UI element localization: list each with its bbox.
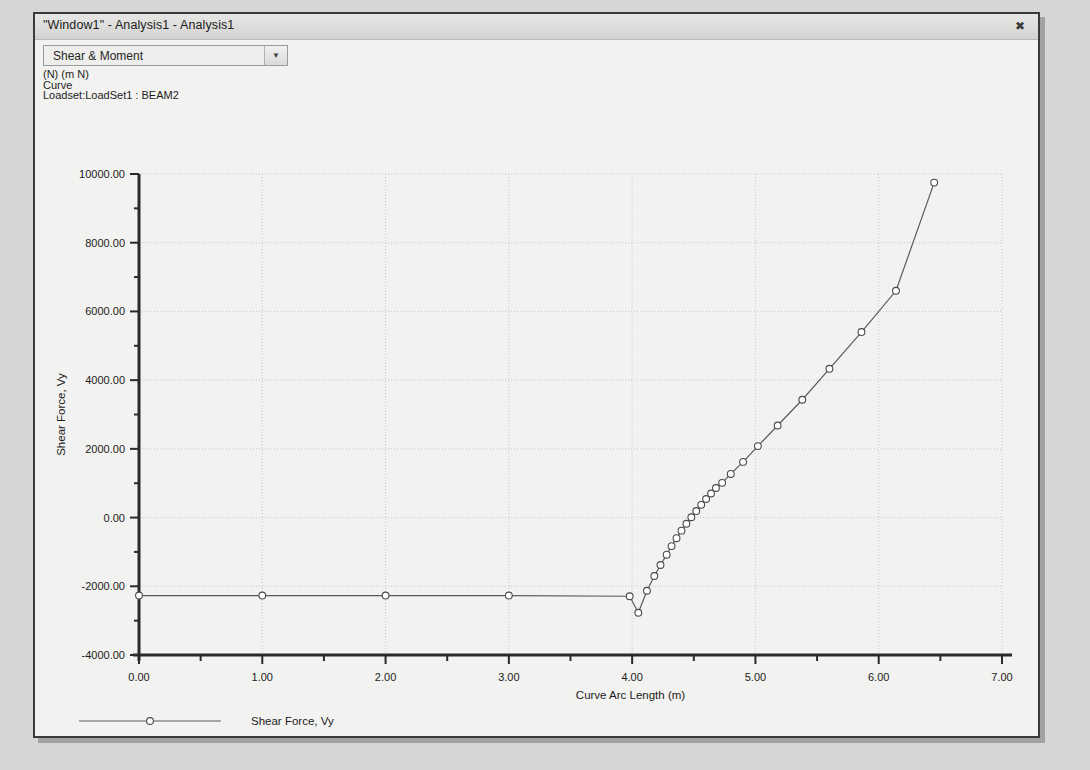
shear-force-chart: -4000.00-2000.000.002000.004000.006000.0… <box>35 14 1042 740</box>
chart-axes <box>133 174 1012 661</box>
chart-gridlines <box>139 174 1002 655</box>
y-tick-label: -4000.00 <box>82 649 125 661</box>
legend-label: Shear Force, Vy <box>251 715 334 727</box>
x-tick-label: 1.00 <box>252 671 273 683</box>
y-tick-label: 10000.00 <box>79 168 125 180</box>
x-tick-label: 0.00 <box>128 671 149 683</box>
y-tick-label: 2000.00 <box>85 443 125 455</box>
x-tick-label: 7.00 <box>991 671 1012 683</box>
x-tick-label: 5.00 <box>745 671 766 683</box>
y-tick-label: 4000.00 <box>85 374 125 386</box>
x-tick-label: 3.00 <box>498 671 519 683</box>
x-axis-title: Curve Arc Length (m) <box>576 689 685 701</box>
x-tick-label: 4.00 <box>621 671 642 683</box>
chart-ticks <box>130 174 1002 664</box>
y-tick-label: 8000.00 <box>85 237 125 249</box>
chart-legend: Shear Force, Vy <box>79 715 334 727</box>
analysis-window: "Window1" - Analysis1 - Analysis1 ✖ Shea… <box>33 12 1040 738</box>
chart-tick-labels: -4000.00-2000.000.002000.004000.006000.0… <box>79 168 1013 683</box>
y-axis-title: Shear Force, Vy <box>55 373 67 456</box>
chart-series <box>136 179 938 616</box>
y-tick-label: 0.00 <box>104 512 125 524</box>
x-tick-label: 6.00 <box>868 671 889 683</box>
y-tick-label: 6000.00 <box>85 305 125 317</box>
y-tick-label: -2000.00 <box>82 580 125 592</box>
x-tick-label: 2.00 <box>375 671 396 683</box>
